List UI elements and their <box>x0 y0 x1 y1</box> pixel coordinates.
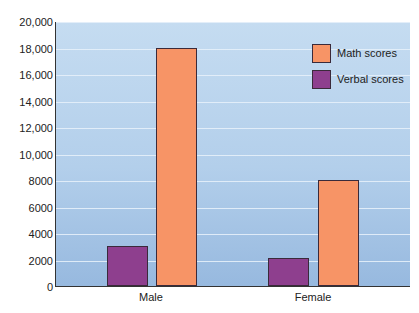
y-tick-label: 14,000 <box>19 96 53 108</box>
legend-label-math: Math scores <box>337 47 397 59</box>
bar-male-verbal <box>107 246 148 286</box>
y-tick-label: 12,000 <box>19 122 53 134</box>
bar-male-math <box>156 48 197 287</box>
y-tick-label: 0 <box>47 281 53 293</box>
bar-female-math <box>318 180 359 286</box>
y-tick-label: 8000 <box>29 175 53 187</box>
y-tick-label: 10,000 <box>19 149 53 161</box>
bar-female-verbal <box>268 258 309 286</box>
legend-item-verbal: Verbal scores <box>312 66 404 92</box>
legend-item-math: Math scores <box>312 40 404 66</box>
x-tick-label: Male <box>139 291 163 303</box>
y-tick-label: 4000 <box>29 228 53 240</box>
y-tick-label: 16,000 <box>19 69 53 81</box>
y-tick-label: 18,000 <box>19 43 53 55</box>
x-tick-label: Female <box>295 291 332 303</box>
gridline <box>56 128 410 129</box>
y-tick-label: 20,000 <box>19 16 53 28</box>
legend-swatch-math <box>312 44 331 63</box>
gridline <box>56 22 410 23</box>
gridline <box>56 155 410 156</box>
y-tick-label: 6000 <box>29 202 53 214</box>
legend-label-verbal: Verbal scores <box>337 73 404 85</box>
legend-swatch-verbal <box>312 70 331 89</box>
gridline <box>56 102 410 103</box>
legend: Math scores Verbal scores <box>312 40 404 92</box>
y-tick-label: 2000 <box>29 255 53 267</box>
